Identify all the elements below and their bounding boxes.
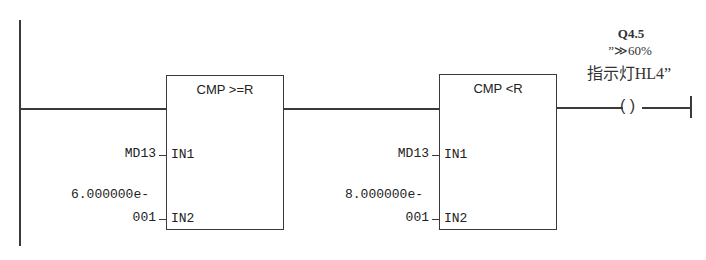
- compare-block-ge[interactable]: CMP >=R IN1 IN2: [166, 75, 284, 230]
- pin-in2: IN2: [171, 211, 194, 226]
- ladder-network: CMP >=R IN1 IN2 MD13 6.000000e- 001 CMP …: [0, 0, 706, 260]
- right-power-rail: [690, 96, 692, 118]
- rung-wire-1: [20, 108, 166, 110]
- rung-wire-4: [642, 107, 691, 109]
- operand-in2-line2[interactable]: 001: [133, 210, 156, 225]
- pin-in2: IN2: [444, 211, 467, 226]
- operand-in1[interactable]: MD13: [125, 146, 156, 161]
- operand-in1[interactable]: MD13: [398, 146, 429, 161]
- operand-in2-line1[interactable]: 8.000000e-: [345, 187, 423, 202]
- pin-in2-stub: [159, 219, 166, 220]
- pin-in1: IN1: [444, 147, 467, 162]
- pin-in1-stub: [432, 155, 439, 156]
- operand-in2-line2[interactable]: 001: [406, 210, 429, 225]
- rung-wire-3: [556, 107, 623, 109]
- coil-symbol-line1: ”≫60%: [590, 43, 670, 59]
- operand-in2-line1[interactable]: 6.000000e-: [71, 187, 149, 202]
- coil-address[interactable]: Q4.5: [596, 26, 666, 42]
- compare-block-lt[interactable]: CMP <R IN1 IN2: [439, 74, 557, 230]
- output-coil-icon[interactable]: ( ): [620, 97, 635, 115]
- block-title: CMP >=R: [167, 82, 283, 97]
- rung-wire-2: [283, 108, 439, 110]
- coil-symbol-line2: 指示灯HL4”: [574, 60, 684, 84]
- pin-in2-stub: [432, 219, 439, 220]
- pin-in1: IN1: [171, 147, 194, 162]
- block-title: CMP <R: [440, 81, 556, 96]
- left-power-rail: [19, 20, 21, 246]
- pin-in1-stub: [159, 155, 166, 156]
